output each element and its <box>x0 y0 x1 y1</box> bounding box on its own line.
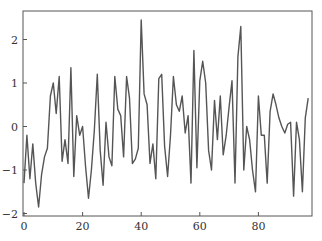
y-tick-label: 2 <box>11 34 18 47</box>
y-tick-label: 1 <box>11 77 18 90</box>
x-tick-label: 0 <box>21 220 28 233</box>
x-tick-label: 20 <box>76 220 90 233</box>
y-tick-label: −2 <box>2 208 18 221</box>
y-tick-label: −1 <box>2 164 18 177</box>
y-tick-label: 0 <box>11 121 18 134</box>
x-tick-label: 40 <box>134 220 148 233</box>
line-chart: −2−1012 020406080 <box>0 0 322 241</box>
plot-frame <box>23 11 312 216</box>
data-line <box>24 20 308 207</box>
x-axis: 020406080 <box>21 212 266 233</box>
x-tick-label: 80 <box>251 220 265 233</box>
x-tick-label: 60 <box>193 220 207 233</box>
